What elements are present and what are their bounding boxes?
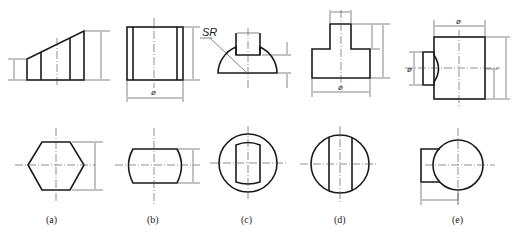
diameter-symbol-b: ø <box>151 88 156 97</box>
caption-e: (e) <box>452 214 463 226</box>
technical-drawing: (a) ø (b) SR <box>0 0 519 240</box>
view-d-top: (d) <box>300 126 378 226</box>
view-d-front: ø <box>312 10 390 97</box>
view-b-top: (b) <box>115 128 200 226</box>
view-e-front: ø ø <box>405 17 510 108</box>
view-e-top: (e) <box>421 128 495 226</box>
view-c-front: SR <box>200 26 291 88</box>
view-a-front <box>8 31 110 86</box>
view-a-top: (a) <box>15 128 103 226</box>
caption-d: (d) <box>334 214 346 226</box>
diameter-symbol-e-left: ø <box>407 65 412 74</box>
sr-label: SR <box>202 26 217 38</box>
caption-a: (a) <box>46 214 57 226</box>
caption-c: (c) <box>241 214 252 226</box>
caption-b: (b) <box>147 214 159 226</box>
diameter-symbol-e-top: ø <box>456 17 461 26</box>
view-b-front: ø <box>127 18 200 102</box>
diameter-symbol-d: ø <box>338 83 343 92</box>
view-c-top: (c) <box>210 126 288 226</box>
